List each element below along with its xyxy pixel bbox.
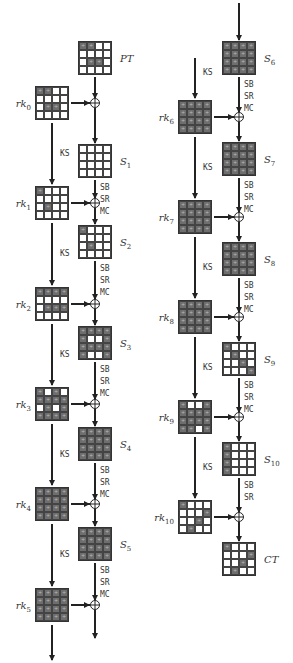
active-byte-cell	[187, 209, 195, 217]
active-byte-cell	[95, 327, 103, 335]
inactive-byte-cell	[239, 567, 247, 575]
inactive-byte-cell	[60, 103, 68, 111]
label-S5: S5	[120, 539, 131, 553]
inactive-byte-cell	[247, 451, 255, 459]
inactive-byte-cell	[87, 169, 95, 177]
active-byte-cell	[95, 343, 103, 351]
inactive-byte-cell	[60, 95, 68, 103]
active-byte-cell	[239, 66, 247, 74]
state-grid-S10	[222, 442, 256, 476]
active-byte-cell	[231, 143, 239, 151]
active-byte-cell	[231, 159, 239, 167]
active-byte-cell	[195, 217, 203, 225]
active-byte-cell	[203, 125, 211, 133]
active-byte-cell	[79, 544, 87, 552]
label-S6: S6	[264, 53, 275, 67]
inactive-byte-cell	[239, 543, 247, 551]
active-byte-cell	[231, 42, 239, 50]
label-main: S	[264, 354, 271, 365]
label-main: rk	[16, 600, 27, 611]
label-subscript: 7	[170, 218, 174, 226]
active-byte-cell	[231, 267, 239, 275]
op-mc: MC	[244, 103, 254, 115]
inactive-byte-cell	[231, 551, 239, 559]
active-byte-cell	[60, 412, 68, 420]
active-byte-cell	[95, 444, 103, 452]
inactive-byte-cell	[195, 425, 203, 433]
active-byte-cell	[223, 243, 231, 251]
key-schedule-label: KS	[203, 362, 213, 374]
op-sb: SB	[244, 480, 254, 492]
key-grid-rk0	[35, 86, 69, 120]
active-byte-cell	[223, 66, 231, 74]
inactive-byte-cell	[79, 242, 87, 250]
inactive-byte-cell	[247, 351, 255, 359]
active-byte-cell	[231, 50, 239, 58]
inactive-byte-cell	[87, 50, 95, 58]
active-byte-cell	[239, 159, 247, 167]
active-byte-cell	[95, 544, 103, 552]
active-byte-cell	[203, 409, 211, 417]
label-subscript: 2	[27, 305, 31, 313]
xor-icon	[90, 499, 100, 509]
active-byte-cell	[195, 309, 203, 317]
inactive-byte-cell	[52, 187, 60, 195]
inactive-byte-cell	[79, 145, 87, 153]
op-sr: SR	[100, 577, 110, 589]
label-S9: S9	[264, 354, 275, 368]
active-byte-cell	[79, 444, 87, 452]
xor-icon	[234, 412, 244, 422]
inactive-byte-cell	[231, 343, 239, 351]
xor-icon	[90, 198, 100, 208]
active-byte-cell	[87, 242, 95, 250]
key-schedule-label: KS	[203, 162, 213, 174]
op-sr: SR	[244, 292, 254, 304]
inactive-byte-cell	[44, 95, 52, 103]
label-main: rk	[16, 98, 27, 109]
active-byte-cell	[52, 103, 60, 111]
label-rk2: rk2	[16, 299, 31, 313]
active-byte-cell	[52, 304, 60, 312]
active-byte-cell	[36, 288, 44, 296]
inactive-byte-cell	[187, 501, 195, 509]
inactive-byte-cell	[195, 401, 203, 409]
active-byte-cell	[239, 50, 247, 58]
active-byte-cell	[247, 151, 255, 159]
arrow-down-icon	[192, 493, 198, 499]
active-byte-cell	[60, 504, 68, 512]
xor-icon	[234, 312, 244, 322]
active-byte-cell	[36, 605, 44, 613]
inactive-byte-cell	[223, 351, 231, 359]
active-byte-cell	[52, 412, 60, 420]
inactive-byte-cell	[103, 153, 111, 161]
active-byte-cell	[203, 425, 211, 433]
arrow-down-icon	[92, 633, 98, 639]
inactive-byte-cell	[247, 359, 255, 367]
label-main: rk	[159, 212, 170, 223]
inactive-byte-cell	[36, 111, 44, 119]
inactive-byte-cell	[239, 551, 247, 559]
key-grid-rk3	[35, 387, 69, 421]
active-byte-cell	[179, 101, 187, 109]
active-byte-cell	[179, 425, 187, 433]
label-subscript: 5	[127, 545, 131, 553]
label-rk4: rk4	[16, 499, 31, 513]
active-byte-cell	[203, 301, 211, 309]
inactive-byte-cell	[223, 367, 231, 375]
inactive-byte-cell	[95, 169, 103, 177]
arrow-down-icon	[236, 436, 242, 442]
inactive-byte-cell	[52, 312, 60, 320]
label-main: rk	[16, 299, 27, 310]
active-byte-cell	[52, 589, 60, 597]
arrow-down-icon	[92, 320, 98, 326]
active-byte-cell	[44, 404, 52, 412]
label-main: rk	[159, 112, 170, 123]
active-byte-cell	[95, 58, 103, 66]
active-byte-cell	[195, 417, 203, 425]
active-byte-cell	[231, 351, 239, 359]
inactive-byte-cell	[231, 543, 239, 551]
arrow-down-icon	[92, 421, 98, 427]
label-subscript: 5	[27, 606, 31, 614]
active-byte-cell	[60, 488, 68, 496]
label-main: rk	[16, 499, 27, 510]
